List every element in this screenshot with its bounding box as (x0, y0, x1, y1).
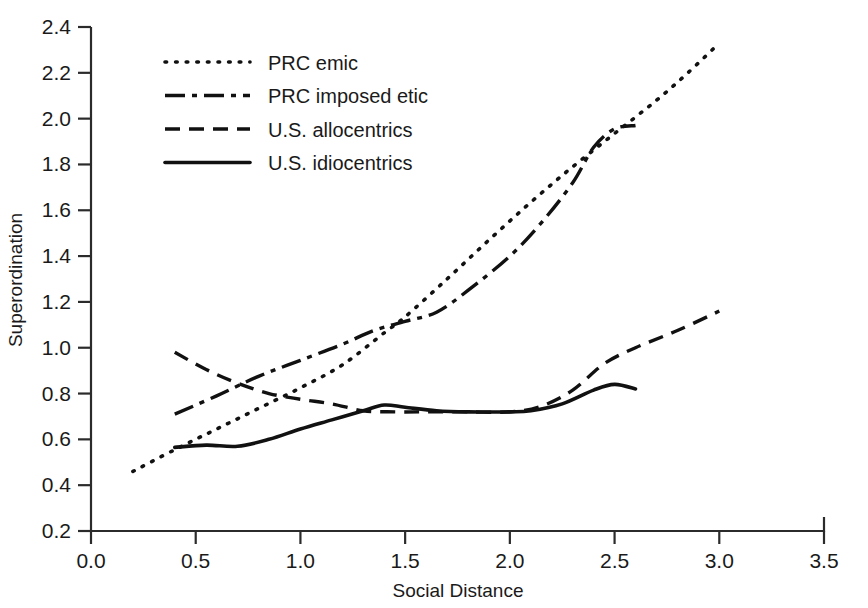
x-tick-label: 2.5 (600, 549, 629, 572)
legend-label: PRC emic (268, 52, 358, 74)
x-tick-label: 3.5 (809, 549, 838, 572)
y-tick-label: 1.6 (42, 198, 71, 221)
legend-label: U.S. allocentrics (268, 119, 413, 141)
x-tick-label: 2.0 (495, 549, 524, 572)
y-tick-label: 2.2 (42, 61, 71, 84)
y-tick-label: 0.4 (42, 473, 72, 496)
x-tick-label: 1.0 (286, 549, 315, 572)
chart-background (0, 0, 868, 608)
legend-label: PRC imposed etic (268, 85, 428, 107)
y-tick-label: 1.4 (42, 244, 72, 267)
x-axis-title: Social Distance (393, 580, 524, 601)
chart-container: 0.00.51.01.52.02.53.03.5 0.20.40.60.81.0… (0, 0, 868, 608)
y-tick-label: 1.0 (42, 336, 71, 359)
y-tick-label: 0.6 (42, 427, 71, 450)
line-chart: 0.00.51.01.52.02.53.03.5 0.20.40.60.81.0… (0, 0, 868, 608)
y-tick-label: 0.2 (42, 519, 71, 542)
y-tick-label: 1.2 (42, 290, 71, 313)
y-tick-label: 2.0 (42, 107, 71, 130)
y-tick-label: 1.8 (42, 152, 71, 175)
y-tick-label: 0.8 (42, 382, 71, 405)
legend-label: U.S. idiocentrics (268, 152, 413, 174)
x-tick-label: 0.0 (76, 549, 105, 572)
x-tick-label: 1.5 (391, 549, 420, 572)
y-axis-title: Superordination (5, 213, 26, 347)
x-tick-label: 3.0 (705, 549, 734, 572)
x-tick-label: 0.5 (181, 549, 210, 572)
y-tick-label: 2.4 (42, 15, 72, 38)
